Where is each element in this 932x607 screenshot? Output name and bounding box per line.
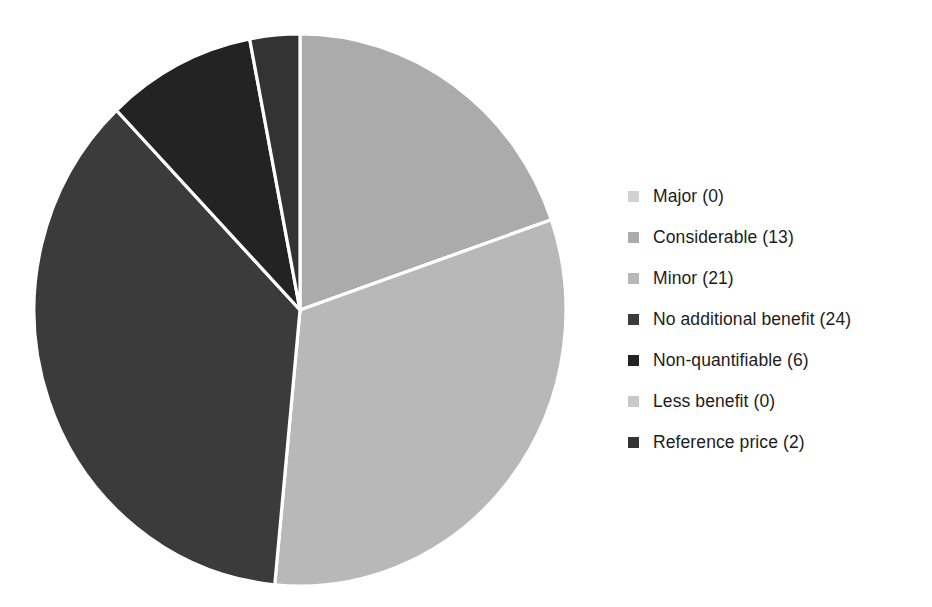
pie-chart-figure: Major (0)Considerable (13)Minor (21)No a… xyxy=(0,0,932,607)
legend-color-swatch xyxy=(628,314,639,325)
legend-item-label: Minor (21) xyxy=(653,270,734,288)
legend-item-label: Less benefit (0) xyxy=(653,393,775,411)
legend-item[interactable]: Reference price (2) xyxy=(628,422,918,463)
legend-item[interactable]: Considerable (13) xyxy=(628,217,918,258)
legend-color-swatch xyxy=(628,396,639,407)
legend-item-label: Major (0) xyxy=(653,188,724,206)
pie-slice-group xyxy=(34,34,566,586)
pie-chart-plot-area xyxy=(30,30,570,590)
legend-item-label: Considerable (13) xyxy=(653,229,794,247)
legend-color-swatch xyxy=(628,273,639,284)
legend-item-label: No additional benefit (24) xyxy=(653,311,851,329)
legend-item[interactable]: Minor (21) xyxy=(628,258,918,299)
legend-item-label: Reference price (2) xyxy=(653,434,805,452)
legend-item[interactable]: Less benefit (0) xyxy=(628,381,918,422)
legend-item-label: Non-quantifiable (6) xyxy=(653,352,809,370)
pie-chart-svg xyxy=(30,30,570,590)
legend-item[interactable]: Major (0) xyxy=(628,176,918,217)
legend-color-swatch xyxy=(628,437,639,448)
legend-color-swatch xyxy=(628,232,639,243)
legend-item[interactable]: Non-quantifiable (6) xyxy=(628,340,918,381)
legend-color-swatch xyxy=(628,191,639,202)
legend-color-swatch xyxy=(628,355,639,366)
chart-legend: Major (0)Considerable (13)Minor (21)No a… xyxy=(628,176,918,463)
legend-item[interactable]: No additional benefit (24) xyxy=(628,299,918,340)
